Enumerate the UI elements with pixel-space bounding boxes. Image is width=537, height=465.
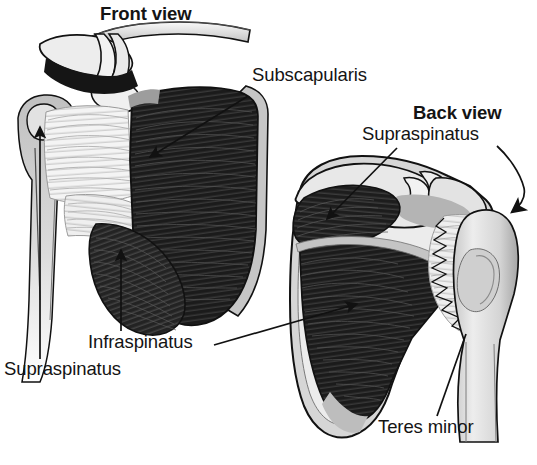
rotator-cuff-figure: Front view Subscapularis Back view Supra… [0,0,537,465]
supraspinatus-tendon-front [44,106,132,203]
subscapularis-label: Subscapularis [252,66,367,85]
back-view-group [290,156,518,442]
supraspinatus-front-label: Supraspinatus [4,360,121,379]
infraspinatus-label: Infraspinatus [88,333,193,352]
back-view-heading: Back view [413,104,502,123]
leader-supraspinatus-back-hook [497,146,524,212]
teres-minor-label: Teres minor [378,418,474,437]
supraspinatus-back-label: Supraspinatus [362,125,479,144]
front-view-group [18,22,268,382]
front-view-heading: Front view [100,5,192,24]
humerus-back-bone [453,210,518,442]
